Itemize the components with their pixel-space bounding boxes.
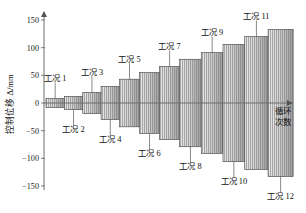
y-tick-label: 100 — [27, 44, 39, 53]
condition-label-6: 工况 6 — [138, 149, 160, 158]
condition-label-4: 工况 4 — [99, 135, 122, 144]
y-tick-label: 150 — [27, 16, 39, 25]
condition-label-9: 工况 9 — [201, 28, 223, 37]
cyclic-loading-protocol-chart: 150100500−50−100−150 工况 1工况 2工况 3工况 4工况 … — [0, 0, 306, 213]
y-tick-label: 0 — [35, 99, 39, 108]
y-tick-label: 50 — [31, 71, 39, 80]
chart-root: 150100500−50−100−150 工况 1工况 2工况 3工况 4工况 … — [0, 0, 306, 213]
condition-label-12: 工况 12 — [267, 192, 293, 201]
y-axis-ticks: 150100500−50−100−150 — [22, 16, 45, 191]
x-axis-title-line2: 次数 — [275, 117, 292, 127]
condition-label-2: 工况 2 — [62, 125, 84, 134]
condition-label-11: 工况 11 — [243, 12, 269, 21]
y-tick-label: −50 — [26, 127, 39, 136]
condition-label-1: 工况 1 — [44, 74, 66, 83]
condition-label-10: 工况 10 — [221, 177, 247, 186]
x-axis-title-line1: 循环 — [275, 106, 291, 116]
condition-label-7: 工况 7 — [158, 42, 180, 51]
y-tick-label: −100 — [22, 154, 39, 163]
condition-label-5: 工况 5 — [118, 55, 140, 64]
condition-label-8: 工况 8 — [179, 162, 201, 171]
y-tick-label: −150 — [22, 182, 39, 191]
condition-label-3: 工况 3 — [81, 68, 103, 77]
y-axis-title: 控制位移 Δ/mm — [4, 74, 15, 134]
